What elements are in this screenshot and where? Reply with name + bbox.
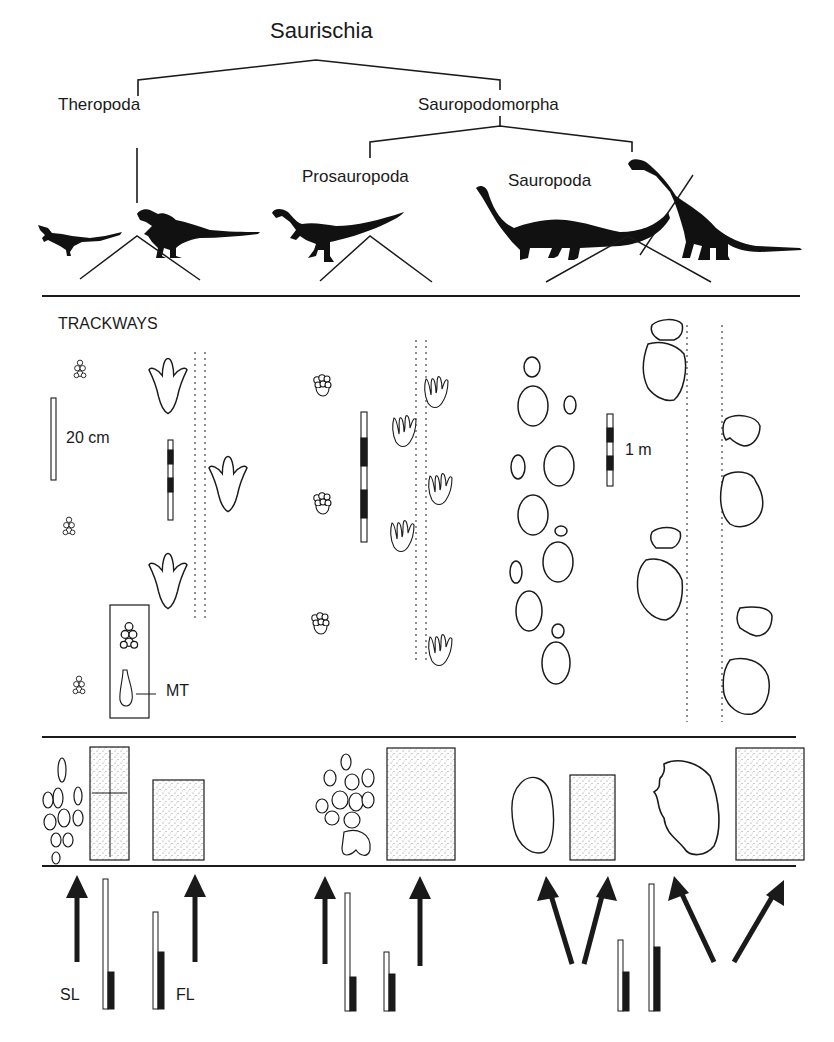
sauropod-wide-trackway: [637, 320, 772, 715]
prosauropod-silhouette: [272, 209, 404, 262]
theropod-small-trackway: [63, 360, 86, 694]
theropod-large-trackway: [149, 359, 247, 609]
theropod-large-silhouette: [137, 209, 260, 258]
theropod-small-silhouette: [38, 225, 122, 256]
figure-graphics: [0, 0, 834, 1042]
sauropod-left-silhouette: [476, 186, 670, 260]
metatarsal-inset: [110, 605, 156, 718]
cladogram-lines: [137, 60, 693, 255]
sauropod-right-silhouette: [628, 159, 802, 260]
sauropod-narrow-trackway: [510, 357, 576, 684]
gait-direction-arrows: [66, 874, 784, 966]
prosauropod-trackway: [312, 375, 452, 666]
footprint-shape-comparison: [43, 747, 804, 864]
trackway-midlines: [195, 325, 722, 722]
stride-foot-length-bars: [103, 879, 660, 1011]
